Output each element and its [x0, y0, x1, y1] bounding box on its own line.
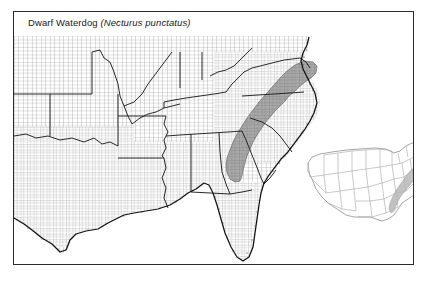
- species-common-name: Dwarf Waterdog: [28, 17, 100, 28]
- us-locator-inset: [302, 133, 414, 233]
- figure-caption: Dwarf Waterdog (Necturus punctatus): [28, 17, 191, 28]
- us-locator-graphic: [302, 133, 414, 233]
- species-scientific-name: (Necturus punctatus): [100, 17, 190, 28]
- figure-frame: Dwarf Waterdog (Necturus punctatus): [13, 11, 414, 265]
